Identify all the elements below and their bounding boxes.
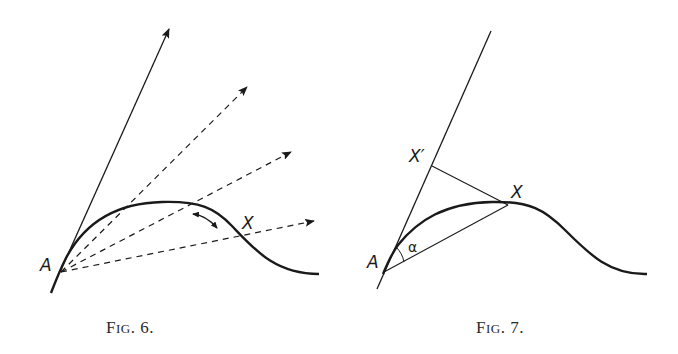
label-x: X: [241, 213, 254, 233]
label-a: A: [366, 252, 379, 272]
label-x: X: [510, 182, 523, 202]
caption-fig-7: FIG. 7.: [476, 318, 524, 338]
caption-suffix: . 6.: [131, 318, 154, 337]
angle-arc: [396, 247, 404, 262]
rotation-arrow-icon: [193, 214, 217, 228]
caption-prefix: F: [476, 318, 486, 337]
dashed-ray-2: [61, 152, 291, 272]
label-a: A: [39, 255, 52, 275]
caption-prefix: F: [106, 318, 116, 337]
figures-canvas: A X A α X′ X: [0, 0, 678, 354]
label-alpha: α: [408, 239, 417, 255]
label-x-prime: X′: [408, 146, 425, 166]
caption-smallcaps: IG: [116, 321, 131, 336]
caption-fig-6: FIG. 6.: [106, 318, 154, 338]
figure-7: A α X′ X: [366, 31, 647, 289]
curve: [383, 202, 647, 274]
caption-suffix: . 7.: [501, 318, 524, 337]
tangent-ray-solid: [60, 29, 169, 272]
dashed-ray-1: [61, 87, 247, 272]
perpendicular-xx-prime: [432, 166, 508, 205]
figure-6: A X: [39, 29, 319, 293]
caption-smallcaps: IG: [486, 321, 501, 336]
